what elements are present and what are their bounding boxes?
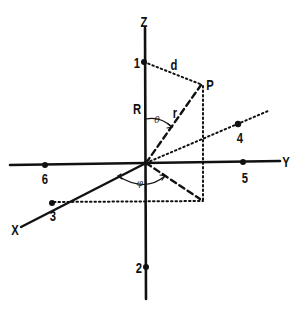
point-2	[143, 264, 149, 270]
y-axis-label: Y	[282, 154, 290, 169]
origin	[144, 161, 149, 166]
phi-label: φ	[137, 179, 143, 188]
point-6	[42, 162, 48, 168]
point-5-label: 5	[242, 170, 248, 185]
point-5	[240, 159, 246, 165]
point-3	[49, 200, 55, 206]
d-label: d	[171, 57, 178, 72]
x-axis	[21, 163, 146, 227]
projection-horizontal	[54, 201, 203, 202]
theta-label: θ	[154, 116, 159, 125]
coordinate-diagram: Z Y X 1 2 3 4 5 6 P d R r θ φ	[0, 0, 297, 311]
point-6-label: 6	[42, 171, 48, 186]
projection-vector	[146, 163, 200, 199]
point-2-label: 2	[136, 260, 142, 275]
x-axis-label: X	[11, 222, 19, 237]
point-1	[141, 59, 147, 65]
point-P-label: P	[206, 77, 214, 92]
diagram-graphics	[0, 0, 297, 311]
z-axis-label: Z	[141, 14, 148, 29]
point-4	[235, 121, 241, 127]
point-4-label: 4	[237, 130, 243, 145]
point-3-label: 3	[50, 208, 56, 223]
R-label: R	[133, 101, 141, 116]
r-label: r	[173, 105, 177, 120]
point-1-label: 1	[134, 55, 140, 70]
